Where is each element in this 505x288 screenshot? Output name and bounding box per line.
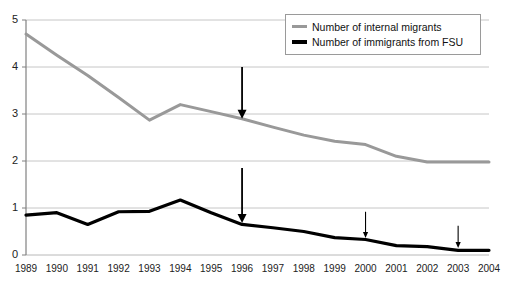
legend-item-fsu-immigrants: Number of immigrants from FSU [292, 34, 473, 49]
x-tick-label: 1995 [194, 263, 228, 274]
x-tick-label: 1992 [102, 263, 136, 274]
x-tick-label: 1999 [318, 263, 352, 274]
legend-swatch-icon [292, 40, 307, 44]
legend-label: Number of internal migrants [312, 21, 442, 33]
chart-legend: Number of internal migrants Number of im… [285, 14, 481, 55]
y-tick-label: 4 [2, 61, 18, 72]
x-tick-label: 1993 [132, 263, 166, 274]
annotation-arrows [238, 67, 461, 248]
data-series [26, 34, 489, 250]
legend-swatch-icon [292, 25, 307, 28]
x-tick-label: 1998 [287, 263, 321, 274]
x-tick-label: 2002 [410, 263, 444, 274]
x-tick-label: 1997 [256, 263, 290, 274]
axes [22, 20, 489, 255]
y-tick-label: 5 [2, 14, 18, 25]
y-tick-label: 1 [2, 202, 18, 213]
x-tick-label: 1991 [71, 263, 105, 274]
x-tick-label: 1994 [163, 263, 197, 274]
y-tick-label: 2 [2, 155, 18, 166]
y-tick-label: 0 [2, 249, 18, 260]
x-tick-label: 1989 [9, 263, 43, 274]
x-tick-label: 2000 [349, 263, 383, 274]
x-tick-label: 2004 [472, 263, 505, 274]
y-tick-label: 3 [2, 108, 18, 119]
x-tick-label: 1996 [225, 263, 259, 274]
legend-item-internal-migrants: Number of internal migrants [292, 19, 473, 34]
x-tick-label: 2003 [441, 263, 475, 274]
x-tick-label: 2001 [379, 263, 413, 274]
legend-label: Number of immigrants from FSU [312, 36, 463, 48]
x-tick-label: 1990 [40, 263, 74, 274]
